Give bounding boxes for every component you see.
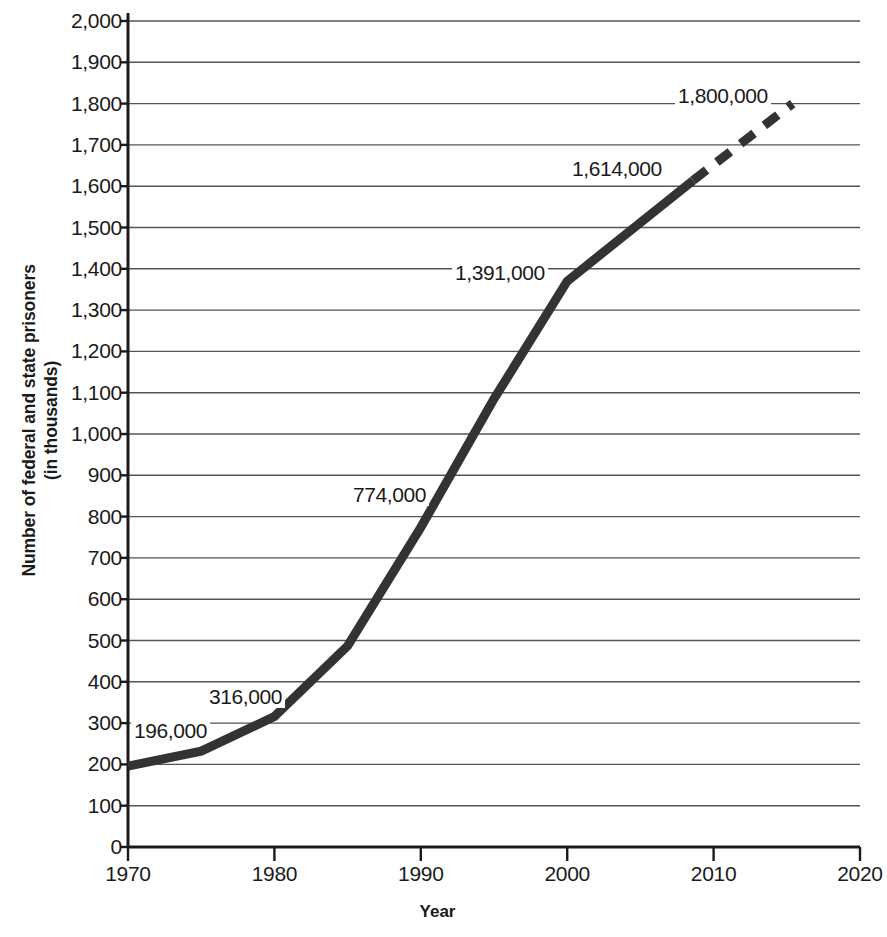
x-axis-title: Year	[0, 902, 875, 922]
x-axis-tick-marks	[128, 847, 860, 861]
data-point-label: 196,000	[131, 720, 210, 742]
data-point-label: 1,391,000	[452, 262, 548, 284]
data-series	[128, 104, 793, 766]
data-point-label: 1,800,000	[675, 85, 771, 107]
y-axis-tick-marks	[120, 21, 128, 847]
data-point-label: 1,614,000	[569, 158, 665, 180]
data-point-label: 316,000	[206, 686, 285, 708]
series-line-projected	[693, 104, 793, 181]
data-point-label: 774,000	[350, 484, 429, 506]
